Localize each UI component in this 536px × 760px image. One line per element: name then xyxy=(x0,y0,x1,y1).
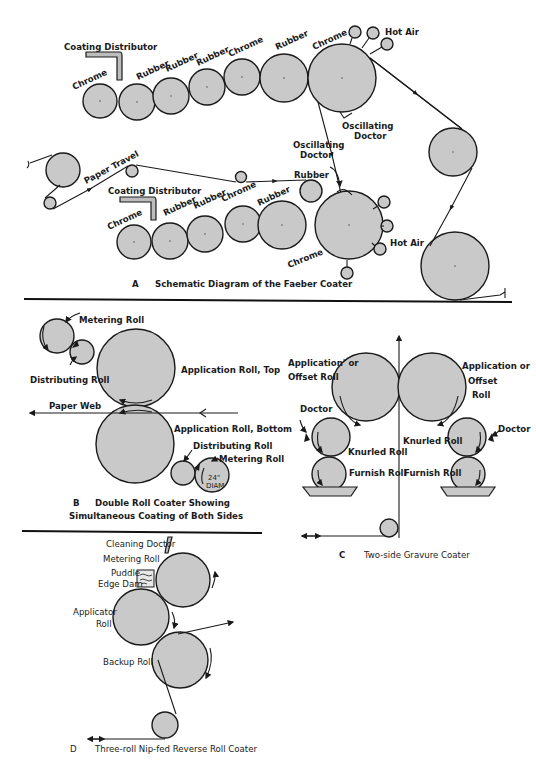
oscillating-doctor-label: Oscillating xyxy=(293,140,344,150)
application-roll-right-label: Roll xyxy=(472,390,490,400)
coating-distributor-label: Coating Distributor xyxy=(64,42,158,52)
coater-diagrams: Coating Distributor Chrome Rubber Rubber… xyxy=(0,0,536,760)
doctor-left-label: Doctor xyxy=(300,404,333,414)
figure-b-letter: B xyxy=(73,498,80,508)
furnish-pan-left xyxy=(303,487,357,496)
knurled-roll-right-label: Knurled Roll xyxy=(403,436,463,446)
furnish-pan-right xyxy=(441,487,495,496)
roll-label: Chrome xyxy=(286,247,325,270)
metering-roll-top xyxy=(40,319,74,353)
figure-a: Coating Distributor Chrome Rubber Rubber… xyxy=(27,26,505,300)
roll-label: Chrome xyxy=(227,34,265,59)
hot-air-label: Hot Air xyxy=(385,27,420,37)
turning-roll xyxy=(380,519,398,537)
figure-b: Metering Roll Distributing Roll Applicat… xyxy=(30,313,292,521)
cleaning-doctor-label: Cleaning Doctor xyxy=(106,539,176,549)
guide-roll xyxy=(126,165,138,177)
applicator-roll-label: Applicator xyxy=(73,607,117,617)
doctor-right-label: Doctor xyxy=(498,424,531,434)
hot-air-roll xyxy=(367,27,379,39)
metering-roll-bottom-label: Metering Roll xyxy=(219,454,284,464)
hot-air-roll xyxy=(378,196,390,208)
backup-roll xyxy=(152,632,208,688)
backup-roll-label: Backup Roll xyxy=(103,657,153,667)
application-roll-bottom-label: Application Roll, Bottom xyxy=(174,424,292,434)
metering-roll-label: Metering Roll xyxy=(103,554,160,564)
oscillating-doctor-label: Doctor xyxy=(354,131,387,141)
application-roll-right xyxy=(398,353,466,421)
hot-air-roll xyxy=(381,38,393,50)
oscillating-doctor-label: Doctor xyxy=(300,150,333,160)
figure-c-letter: C xyxy=(339,550,345,560)
puddle-label: Puddle xyxy=(111,568,140,578)
distributing-roll-bottom-label: Distributing Roll xyxy=(193,441,273,451)
application-roll-top-label: Application Roll, Top xyxy=(181,365,280,375)
roll-label: Rubber xyxy=(274,28,311,52)
oscillating-doctor-blade xyxy=(340,112,352,118)
application-roll-left-label: Application' or xyxy=(288,358,359,368)
figure-d-letter: D xyxy=(70,744,77,754)
diameter-label: 24" xyxy=(208,474,220,482)
lower-roll-train: Paper Travel xyxy=(27,140,425,279)
coating-distributor-label: Coating Distributor xyxy=(108,186,202,196)
applicator-roll xyxy=(113,589,169,645)
idler-roll xyxy=(152,712,178,738)
metering-roll xyxy=(156,553,210,607)
paper-web-label: Paper Web xyxy=(49,401,101,411)
roll-label: Rubber xyxy=(195,44,232,68)
metering-roll-top-label: Metering Roll xyxy=(79,315,144,325)
guide-roll xyxy=(236,172,247,183)
furnish-roll-left xyxy=(312,457,346,491)
figure-a-caption: Schematic Diagram of the Faeber Coater xyxy=(155,279,353,289)
furnish-roll-right-label: Furnish Roll xyxy=(404,468,462,478)
furnish-roll-left-label: Furnish Roll xyxy=(349,468,407,478)
divider xyxy=(24,299,512,302)
figure-b-caption: Simultaneous Coating of Both Sides xyxy=(69,511,243,521)
roll-rubber-top xyxy=(300,180,322,202)
application-roll-top xyxy=(97,329,175,407)
oscillating-doctor-label: Oscillating xyxy=(342,121,393,131)
figure-c: Application' or Offset Roll Application … xyxy=(288,336,531,560)
hot-air-roll xyxy=(374,243,386,255)
applicator-roll-label: Roll xyxy=(96,619,112,629)
application-roll-right-label: Offset xyxy=(468,376,497,386)
upper-roll-train: Coating Distributor Chrome Rubber Rubber… xyxy=(64,26,420,141)
hot-air-label: Hot Air xyxy=(390,238,425,248)
figure-d: Cleaning Doctor Metering Roll Puddle Edg… xyxy=(70,537,258,754)
application-roll-left-label: Offset Roll xyxy=(288,372,339,382)
application-roll-right-label: Application or xyxy=(462,361,531,371)
guide-roll xyxy=(44,197,56,209)
knurled-roll-left-label: Knurled Roll xyxy=(348,447,408,457)
distributing-roll-top xyxy=(70,340,94,364)
distributing-roll-bottom xyxy=(171,461,195,485)
unwind-roll xyxy=(46,153,80,187)
hot-air-roll xyxy=(341,267,353,279)
distributing-roll-top-label: Distributing Roll xyxy=(30,375,110,385)
figure-a-letter: A xyxy=(132,279,139,289)
edge-dam-label: Edge Dam xyxy=(98,579,143,589)
figure-b-caption: Double Roll Coater Showing xyxy=(95,498,230,508)
figure-c-caption: Two-side Gravure Coater xyxy=(363,550,470,560)
roll-label: Rubber xyxy=(294,170,330,180)
divider xyxy=(22,531,262,533)
roll-label: Rubber xyxy=(164,50,201,74)
hot-air-roll xyxy=(349,26,361,38)
diameter-label: DIAM xyxy=(206,482,224,490)
figure-d-caption: Three-roll Nip-fed Reverse Roll Coater xyxy=(94,744,258,754)
application-roll-bottom xyxy=(96,405,174,483)
